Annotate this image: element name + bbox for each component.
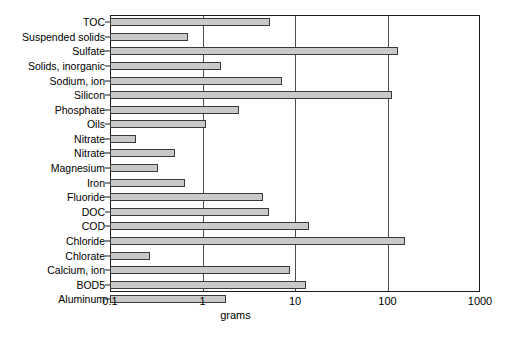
bar-track <box>110 205 480 220</box>
bar <box>110 106 239 114</box>
category-label: Chlorate <box>65 250 105 261</box>
category-label: Sodium, ion <box>50 75 105 86</box>
bar-track <box>110 263 480 278</box>
category-label: Iron <box>87 177 105 188</box>
bar-row: Sodium, ion <box>0 73 519 88</box>
category-label: Nitrate <box>74 133 105 144</box>
bar-row: Nitrate <box>0 146 519 161</box>
bar-track <box>110 73 480 88</box>
x-axis-title-text: grams <box>220 309 251 321</box>
bar-track <box>110 161 480 176</box>
bar-row: Suspended solids <box>0 30 519 45</box>
bar <box>110 266 290 274</box>
bar-row: TOC <box>0 15 519 30</box>
bar <box>110 193 263 201</box>
x-axis-title: grams <box>0 309 519 321</box>
x-tick-label: 10 <box>289 294 301 308</box>
bar-track <box>110 15 480 30</box>
bar <box>110 62 221 70</box>
bar <box>110 179 185 187</box>
bar-row: Solids, inorganic <box>0 59 519 74</box>
bar-rows: TOCSuspended solidsSulfateSolids, inorga… <box>0 15 519 292</box>
bar-row: BOD5 <box>0 277 519 292</box>
bar <box>110 77 282 85</box>
bar-row: Oils <box>0 117 519 132</box>
bar-row: COD <box>0 219 519 234</box>
bar-track <box>110 234 480 249</box>
bar-row: Sulfate <box>0 44 519 59</box>
bar-track <box>110 132 480 147</box>
bar <box>110 252 150 260</box>
x-tick-label: 1 <box>199 294 205 308</box>
category-label: Oils <box>87 119 105 130</box>
bar-track <box>110 59 480 74</box>
bar-track <box>110 44 480 59</box>
bar <box>110 237 405 245</box>
category-label: Fluoride <box>67 192 105 203</box>
category-label: Sulfate <box>72 46 105 57</box>
bar <box>110 222 309 230</box>
x-axis-tick-labels: 0.11101001000 <box>0 294 519 310</box>
category-label: BOD5 <box>76 279 105 290</box>
x-tick-label: 100 <box>378 294 396 308</box>
bar <box>110 91 392 99</box>
bar <box>110 33 188 41</box>
bar-row: Chloride <box>0 234 519 249</box>
bar-row: DOC <box>0 205 519 220</box>
category-label: Magnesium <box>51 163 105 174</box>
bar-row: Magnesium <box>0 161 519 176</box>
bar-track <box>110 248 480 263</box>
bar-track <box>110 117 480 132</box>
bar-track <box>110 175 480 190</box>
category-label: TOC <box>83 17 105 28</box>
x-tick-label: 1000 <box>468 294 492 308</box>
bar <box>110 18 270 26</box>
bar-track <box>110 277 480 292</box>
bar <box>110 135 136 143</box>
category-label: Nitrate <box>74 148 105 159</box>
bar-row: Fluoride <box>0 190 519 205</box>
category-label: Suspended solids <box>22 31 105 42</box>
bar-track <box>110 146 480 161</box>
category-label: Silicon <box>74 90 105 101</box>
bar <box>110 47 398 55</box>
bar-chart: TOCSuspended solidsSulfateSolids, inorga… <box>0 0 519 337</box>
bar-row: Calcium, ion <box>0 263 519 278</box>
category-label: DOC <box>82 206 105 217</box>
bar-track <box>110 88 480 103</box>
bar-row: Nitrate <box>0 132 519 147</box>
bar-row: Chlorate <box>0 248 519 263</box>
bar-row: Silicon <box>0 88 519 103</box>
bar <box>110 164 158 172</box>
category-label: Chloride <box>66 235 105 246</box>
bar <box>110 281 306 289</box>
category-label: Phosphate <box>55 104 105 115</box>
category-label: Solids, inorganic <box>28 61 105 72</box>
x-tick-label: 0.1 <box>102 294 117 308</box>
bar-row: Phosphate <box>0 102 519 117</box>
bar <box>110 120 206 128</box>
bar <box>110 149 175 157</box>
category-label: Calcium, ion <box>47 265 105 276</box>
bar <box>110 208 269 216</box>
bar-row: Iron <box>0 175 519 190</box>
bar-track <box>110 190 480 205</box>
category-label: COD <box>82 221 105 232</box>
bar-track <box>110 102 480 117</box>
bar-track <box>110 30 480 45</box>
bar-track <box>110 219 480 234</box>
